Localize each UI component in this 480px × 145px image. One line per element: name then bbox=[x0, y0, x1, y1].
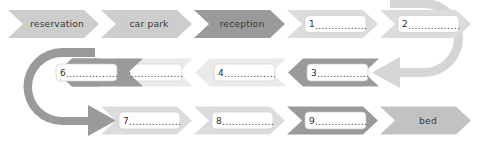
step-blank-1-dots: ................ bbox=[315, 21, 367, 31]
step-blank-2-dots: ................ bbox=[408, 21, 460, 31]
step-blank-4-dots: ................ bbox=[224, 69, 276, 79]
step-blank-8-dots: ................ bbox=[222, 117, 274, 127]
row-1: reservation car park reception 1 .......… bbox=[8, 10, 471, 38]
step-reception-label: reception bbox=[220, 18, 265, 29]
step-blank-8[interactable]: 8 ................ bbox=[194, 107, 285, 135]
step-blank-7-dots: ................ bbox=[129, 117, 181, 127]
step-blank-3-number: 3 bbox=[311, 68, 317, 78]
process-flow-diagram: reservation car park reception 1 .......… bbox=[0, 0, 480, 145]
step-blank-2-number: 2 bbox=[402, 19, 408, 29]
step-blank-9[interactable]: 9 ................ bbox=[287, 107, 378, 135]
step-car-park-label: car park bbox=[129, 18, 169, 29]
step-blank-3[interactable]: 3 ................ bbox=[288, 59, 379, 87]
step-blank-5-dots: ................ bbox=[131, 69, 183, 79]
step-reservation-label: reservation bbox=[30, 18, 84, 29]
step-blank-2[interactable]: 2 ................ bbox=[380, 10, 471, 38]
step-blank-3-dots: ................ bbox=[317, 69, 369, 79]
step-bed-label: bed bbox=[419, 115, 437, 126]
step-blank-7-number: 7 bbox=[123, 116, 129, 126]
diagram-canvas: reservation car park reception 1 .......… bbox=[0, 0, 480, 145]
step-bed[interactable]: bed bbox=[380, 107, 471, 135]
step-blank-4[interactable]: 4 ................ bbox=[195, 59, 286, 87]
step-reception[interactable]: reception bbox=[194, 10, 285, 38]
step-car-park[interactable]: car park bbox=[101, 10, 192, 38]
row-3: 7 ................ 8 ................ 9 … bbox=[101, 107, 471, 135]
step-blank-9-dots: ................ bbox=[315, 117, 367, 127]
step-blank-6-dots: ................ bbox=[66, 69, 118, 79]
row-2: 3 ................ 4 ................ 5 … bbox=[56, 59, 379, 87]
step-reservation[interactable]: reservation bbox=[8, 10, 99, 38]
step-blank-1[interactable]: 1 ................ bbox=[287, 10, 378, 38]
step-blank-1-number: 1 bbox=[309, 19, 315, 29]
